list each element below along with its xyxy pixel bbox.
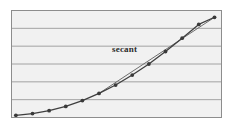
data-point-marker (197, 23, 201, 27)
data-point-marker (147, 62, 151, 66)
plot-area-svg (0, 0, 234, 128)
data-point-marker (114, 83, 118, 87)
data-point-marker (14, 113, 18, 117)
secant-annotation-label: secant (112, 44, 137, 54)
data-point-marker (47, 109, 51, 113)
data-point-marker (164, 50, 168, 54)
data-point-marker (31, 112, 35, 116)
data-point-marker (80, 99, 84, 103)
data-point-marker (180, 36, 184, 40)
data-point-marker (213, 15, 217, 19)
data-point-marker (130, 73, 134, 77)
data-point-marker (97, 92, 101, 96)
chart-figure: secant (0, 0, 234, 128)
data-point-marker (64, 105, 68, 109)
